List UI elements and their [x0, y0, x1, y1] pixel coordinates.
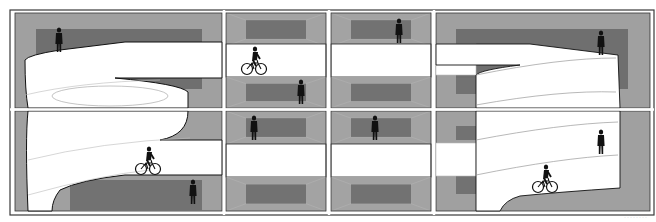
image-caption: ········: [624, 214, 648, 220]
panel-bottom-mid-left: [226, 111, 326, 211]
panel-bottom-mid-right: [331, 111, 431, 211]
panel-top-mid-left: [226, 13, 326, 108]
panel-bottom-right: [436, 111, 650, 211]
section-diagram: [0, 0, 656, 222]
panel-top-left: [15, 13, 222, 108]
panel-bottom-left: [15, 111, 222, 211]
panel-top-mid-right: [331, 13, 431, 108]
panel-top-right: [436, 13, 650, 108]
